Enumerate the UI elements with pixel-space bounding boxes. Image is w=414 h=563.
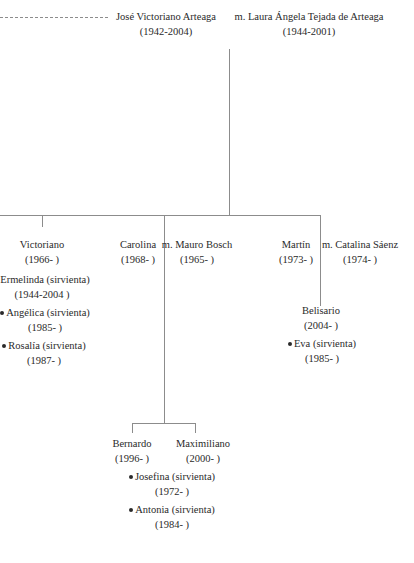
- person-years: (1996- ): [108, 451, 156, 466]
- person-years: (1966- ): [12, 252, 72, 267]
- person-name: m. Mauro Bosch: [160, 237, 234, 252]
- person-victoriano: Victoriano (1966- ): [12, 237, 72, 267]
- person-name: Eva (sirvienta): [294, 338, 356, 349]
- person-name: José Victoriano Arteaga: [108, 9, 224, 24]
- generation-1-horizontal-line: [0, 215, 321, 216]
- spouse-catalina-saenz: m. Catalina Sáenz (1974- ): [315, 237, 405, 267]
- bullet-icon: [0, 311, 4, 315]
- person-name: Angélica (sirvienta): [6, 307, 90, 318]
- person-years: (2004- ): [296, 318, 346, 333]
- person-name: Ermelinda (sirvienta): [0, 274, 90, 285]
- person-years: (1965- ): [160, 252, 234, 267]
- bullet-icon: [129, 475, 133, 479]
- person-name: Martín: [276, 237, 316, 252]
- servant-ermelinda: Ermelinda (sirvienta) (1944-2004 ): [0, 272, 90, 302]
- person-name: Victoriano: [12, 237, 72, 252]
- person-years: (1942-2004): [108, 24, 224, 39]
- person-bernardo: Bernardo (1996- ): [108, 436, 156, 466]
- bullet-icon: [129, 508, 133, 512]
- person-jose-victoriano-arteaga: José Victoriano Arteaga (1942-2004): [108, 9, 224, 39]
- person-years: (1968- ): [113, 252, 163, 267]
- person-carolina: Carolina (1968- ): [113, 237, 163, 267]
- spouse-mauro-bosch: m. Mauro Bosch (1965- ): [160, 237, 234, 267]
- servant-angelica: Angélica (sirvienta) (1985- ): [0, 305, 90, 335]
- person-belisario: Belisario (2004- ): [296, 303, 346, 333]
- person-years: (1944-2004 ): [0, 287, 90, 302]
- servant-eva: Eva (sirvienta) (1985- ): [284, 336, 360, 366]
- generation-2-horizontal-line: [132, 423, 196, 424]
- victoriano-drop-line: [42, 215, 43, 227]
- person-name: Maximiliano: [170, 436, 236, 451]
- person-name: Bernardo: [108, 436, 156, 451]
- person-years: (1972- ): [124, 484, 220, 499]
- bernardo-drop-line: [132, 423, 133, 433]
- servant-josefina: Josefina (sirvienta) (1972- ): [124, 469, 220, 499]
- person-years: (1974- ): [315, 252, 405, 267]
- person-name: Carolina: [113, 237, 163, 252]
- person-maximiliano: Maximiliano (2000- ): [170, 436, 236, 466]
- person-years: (1944-2001): [224, 24, 394, 39]
- bullet-icon: [288, 342, 292, 346]
- person-name: Antonia (sirvienta): [135, 504, 215, 515]
- person-years: (1987- ): [0, 353, 88, 368]
- person-years: (1973- ): [276, 252, 316, 267]
- person-martin: Martín (1973- ): [276, 237, 316, 267]
- dashed-link-line: [0, 17, 108, 18]
- person-name: Belisario: [296, 303, 346, 318]
- spouse-laura-angela-tejada: m. Laura Ángela Tejada de Arteaga (1944-…: [224, 9, 394, 39]
- person-years: (2000- ): [170, 451, 236, 466]
- person-name: Rosalía (sirvienta): [8, 340, 85, 351]
- person-name: Josefina (sirvienta): [135, 471, 215, 482]
- servant-antonia: Antonia (sirvienta) (1984- ): [124, 502, 220, 532]
- person-years: (1984- ): [124, 517, 220, 532]
- root-descent-line: [229, 49, 230, 215]
- maximiliano-drop-line: [195, 423, 196, 433]
- person-name: m. Laura Ángela Tejada de Arteaga: [224, 9, 394, 24]
- person-years: (1985- ): [0, 320, 90, 335]
- person-years: (1985- ): [284, 351, 360, 366]
- person-name: m. Catalina Sáenz: [315, 237, 405, 252]
- servant-rosalia: Rosalía (sirvienta) (1987- ): [0, 338, 88, 368]
- bullet-icon: [2, 344, 6, 348]
